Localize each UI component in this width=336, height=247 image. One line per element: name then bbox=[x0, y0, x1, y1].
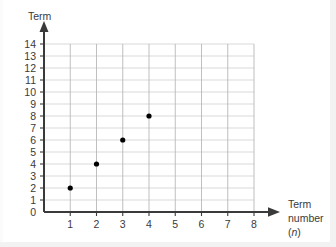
y-tick-label: 2 bbox=[30, 182, 36, 194]
scatter-plot-figure: 14 13 12 11 10 9 8 7 6 5 4 3 2 1 0 1 2 3… bbox=[0, 0, 336, 247]
y-tick-label: 12 bbox=[24, 62, 36, 74]
y-tick-label: 4 bbox=[30, 158, 36, 170]
y-tick-label: 14 bbox=[24, 38, 36, 50]
y-tick-label-zero: 0 bbox=[30, 206, 36, 218]
x-axis-title-line3: (n) bbox=[288, 226, 301, 238]
x-tick-label: 5 bbox=[172, 218, 178, 230]
y-tick-label: 1 bbox=[30, 194, 36, 206]
x-tick-label: 7 bbox=[225, 218, 231, 230]
x-axis bbox=[44, 207, 280, 217]
y-axis-title: Term bbox=[28, 10, 52, 22]
y-tick-label: 8 bbox=[30, 110, 36, 122]
x-axis-title-line2: number bbox=[288, 212, 324, 224]
y-tick-label: 11 bbox=[25, 74, 36, 86]
x-tick-label: 1 bbox=[67, 218, 73, 230]
x-axis-variable-symbol: n bbox=[292, 226, 298, 238]
y-tick-label: 10 bbox=[24, 86, 36, 98]
y-tick-label: 7 bbox=[30, 122, 36, 134]
x-tick-label: 6 bbox=[199, 218, 205, 230]
data-point bbox=[94, 161, 99, 166]
y-tick-label: 9 bbox=[30, 98, 36, 110]
x-tick-label: 8 bbox=[251, 218, 257, 230]
x-axis-title-line1: Term bbox=[288, 198, 312, 210]
y-tick-label: 5 bbox=[30, 146, 36, 158]
x-tick-label: 3 bbox=[120, 218, 126, 230]
y-axis-tick-labels: 14 13 12 11 10 9 8 7 6 5 4 3 2 1 0 bbox=[24, 38, 36, 218]
x-tick-label: 4 bbox=[146, 218, 152, 230]
y-tick-label: 3 bbox=[30, 170, 36, 182]
x-tick-label: 2 bbox=[94, 218, 100, 230]
data-point bbox=[146, 113, 151, 118]
y-tick-label: 13 bbox=[24, 50, 36, 62]
y-tick-label: 6 bbox=[30, 134, 36, 146]
plot-canvas: 14 13 12 11 10 9 8 7 6 5 4 3 2 1 0 1 2 3… bbox=[0, 0, 336, 247]
x-axis-tick-labels: 1 2 3 4 5 6 7 8 bbox=[67, 218, 257, 230]
x-axis-title: Term number (n) bbox=[288, 198, 324, 238]
data-point bbox=[120, 137, 125, 142]
data-point bbox=[68, 185, 73, 190]
